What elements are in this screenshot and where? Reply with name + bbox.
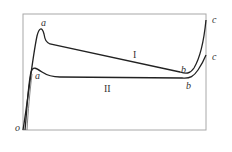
curve-I-end-label: c [212, 14, 217, 25]
origin-label: o [15, 122, 20, 133]
curve-I-min-label: b [181, 64, 186, 75]
curve-I-label: I [133, 49, 136, 60]
curve-II-label: II [104, 83, 111, 94]
curve-II-min-label: b [186, 80, 191, 91]
curve-I-peak-label: a [41, 17, 46, 28]
curve-I [23, 20, 206, 130]
curve-II-peak-label: a [35, 70, 40, 81]
curve-II [25, 55, 206, 130]
curve-II-end-label: c [212, 51, 217, 62]
diagram-canvas: o a a b b c c I II [0, 0, 232, 152]
